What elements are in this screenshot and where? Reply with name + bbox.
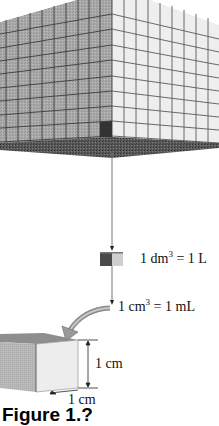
curved-arrow: [62, 308, 110, 341]
arrowhead-1: [110, 246, 114, 251]
figure-caption: Figure 1.?: [2, 404, 93, 426]
dm-label-exponent: 3: [168, 249, 173, 259]
large-cube-left-face: [0, 0, 112, 150]
cm-volume-label: 1 cm3 = 1 mL: [118, 300, 195, 314]
dm-volume-label: 1 dm3 = 1 L: [140, 252, 207, 266]
cm-cube: [0, 333, 78, 392]
height-label: 1 cm: [95, 357, 123, 371]
cm-cube-right-face: [36, 340, 78, 392]
dm-label-suffix: = 1 L: [173, 251, 207, 266]
cm-label-prefix: 1 cm: [118, 299, 146, 314]
dm-cube: [100, 252, 123, 266]
highlighted-dm-cell: [100, 121, 112, 137]
large-cube: [0, 0, 219, 158]
cm-label-suffix: = 1 mL: [150, 299, 195, 314]
cm-label-exponent: 3: [146, 297, 151, 307]
cm-cube-left-face: [0, 342, 36, 392]
arrowhead-2: [110, 300, 114, 305]
dm-label-prefix: 1 dm: [140, 251, 168, 266]
